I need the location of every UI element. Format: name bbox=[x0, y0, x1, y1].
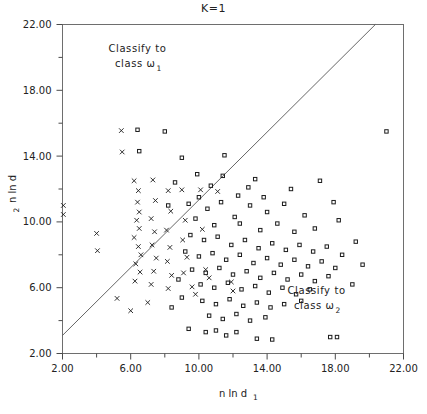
y-axis-ticks bbox=[57, 25, 63, 354]
data-point-square bbox=[252, 261, 255, 264]
data-point-square bbox=[235, 330, 238, 333]
y-tick-label: 14.00 bbox=[23, 151, 52, 162]
data-point-cross bbox=[95, 248, 100, 253]
data-point-square bbox=[216, 235, 219, 238]
data-point-cross bbox=[165, 259, 170, 264]
data-point-cross bbox=[215, 189, 220, 194]
data-point-square bbox=[284, 248, 287, 251]
data-point-cross bbox=[154, 256, 159, 261]
x-tick-label: 10.00 bbox=[185, 363, 214, 374]
x-axis-tick-labels: 2.006.0010.0014.0018.0022.00 bbox=[51, 363, 417, 374]
x-tick-label: 22.00 bbox=[389, 363, 418, 374]
data-point-cross bbox=[168, 209, 173, 214]
data-point-square bbox=[243, 238, 246, 241]
data-point-cross bbox=[137, 226, 142, 231]
data-point-square bbox=[211, 251, 214, 254]
data-point-square bbox=[136, 128, 139, 131]
data-point-square bbox=[259, 276, 262, 279]
data-series-class-omega-2 bbox=[136, 128, 388, 341]
data-point-square bbox=[190, 268, 193, 271]
data-point-square bbox=[177, 278, 180, 281]
data-point-square bbox=[187, 327, 190, 330]
y-tick-label: 10.00 bbox=[23, 216, 52, 227]
data-point-square bbox=[206, 207, 209, 210]
data-point-square bbox=[361, 263, 364, 266]
data-point-square bbox=[327, 274, 330, 277]
data-point-square bbox=[257, 247, 260, 250]
data-point-square bbox=[265, 256, 268, 259]
data-point-square bbox=[313, 279, 316, 282]
data-point-cross bbox=[166, 188, 171, 193]
data-point-square bbox=[213, 223, 216, 226]
data-point-square bbox=[204, 330, 207, 333]
annotation-1-line-1: Classify to bbox=[108, 43, 166, 54]
x-axis-title-subscript: 1 bbox=[253, 393, 258, 402]
data-point-cross bbox=[198, 188, 203, 193]
data-point-square bbox=[293, 230, 296, 233]
data-series-class-omega-1 bbox=[61, 128, 235, 313]
data-point-square bbox=[293, 258, 296, 261]
data-point-square bbox=[253, 177, 256, 180]
data-point-square bbox=[167, 204, 170, 207]
data-point-square bbox=[286, 278, 289, 281]
data-point-square bbox=[255, 337, 258, 340]
data-point-cross bbox=[61, 203, 66, 208]
annotation-2-line-2: class ω bbox=[294, 300, 335, 311]
data-point-square bbox=[354, 240, 357, 243]
data-point-cross bbox=[61, 212, 66, 217]
data-point-square bbox=[163, 130, 166, 133]
y-axis-tick-labels: 2.006.0010.0014.0018.0022.00 bbox=[23, 19, 52, 359]
data-point-square bbox=[223, 154, 226, 157]
data-point-square bbox=[238, 222, 241, 225]
data-point-cross bbox=[183, 218, 188, 223]
data-point-square bbox=[187, 202, 190, 205]
data-point-square bbox=[238, 253, 241, 256]
x-tick-label: 14.00 bbox=[253, 363, 282, 374]
y-tick-label: 18.00 bbox=[23, 85, 52, 96]
annotation-1-subscript: 1 bbox=[157, 64, 162, 73]
y-axis-title-subscript: 2 bbox=[12, 207, 21, 212]
data-point-cross bbox=[115, 296, 120, 301]
x-tick-label: 18.00 bbox=[321, 363, 350, 374]
data-point-square bbox=[253, 284, 256, 287]
data-point-square bbox=[224, 334, 227, 337]
data-point-cross bbox=[128, 308, 133, 313]
data-point-cross bbox=[149, 282, 154, 287]
data-point-cross bbox=[181, 271, 186, 276]
data-point-square bbox=[245, 270, 248, 273]
data-point-square bbox=[271, 242, 274, 245]
x-axis-title-text: n ln d bbox=[219, 388, 247, 399]
annotation-2-subscript: 2 bbox=[336, 306, 341, 315]
data-point-square bbox=[214, 302, 217, 305]
data-point-square bbox=[233, 215, 236, 218]
data-point-square bbox=[202, 238, 205, 241]
data-point-square bbox=[282, 302, 285, 305]
y-tick-label: 6.00 bbox=[29, 282, 51, 293]
scatter-plot-figure: K=1 2.006.0010.0014.0018.0022.00 2.006.0… bbox=[0, 0, 427, 414]
data-point-square bbox=[248, 204, 251, 207]
data-point-square bbox=[214, 329, 217, 332]
x-tick-label: 6.00 bbox=[120, 363, 142, 374]
data-point-cross bbox=[132, 235, 137, 240]
data-point-cross bbox=[169, 273, 174, 278]
data-point-cross bbox=[200, 227, 205, 232]
data-point-square bbox=[189, 233, 192, 236]
data-point-square bbox=[282, 202, 285, 205]
data-point-square bbox=[265, 210, 268, 213]
x-axis-title: n ln d 1 bbox=[219, 388, 258, 402]
data-point-square bbox=[235, 312, 238, 315]
data-point-cross bbox=[153, 198, 158, 203]
data-point-square bbox=[328, 335, 331, 338]
data-point-cross bbox=[145, 300, 150, 305]
y-axis-title-text: n ln d bbox=[7, 175, 18, 203]
data-point-cross bbox=[136, 244, 141, 249]
annotation-classify-class-2: Classify to class ω 2 bbox=[287, 285, 345, 315]
data-point-square bbox=[173, 181, 176, 184]
data-point-square bbox=[313, 227, 316, 230]
data-point-square bbox=[255, 301, 258, 304]
data-point-cross bbox=[149, 216, 154, 221]
data-point-cross bbox=[207, 276, 212, 281]
data-point-square bbox=[272, 271, 275, 274]
data-point-cross bbox=[138, 270, 143, 275]
data-point-square bbox=[219, 200, 222, 203]
